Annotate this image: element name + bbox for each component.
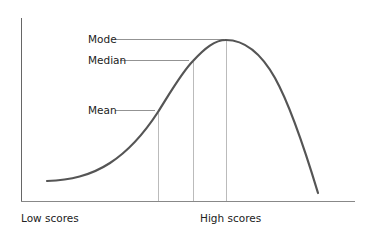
high-scores-label: High scores	[200, 212, 261, 224]
mode-label: Mode	[88, 33, 117, 45]
median-label: Median	[88, 54, 126, 66]
mean-label: Mean	[88, 104, 117, 116]
low-scores-label: Low scores	[21, 212, 79, 224]
skewed-distribution-diagram	[0, 0, 368, 237]
